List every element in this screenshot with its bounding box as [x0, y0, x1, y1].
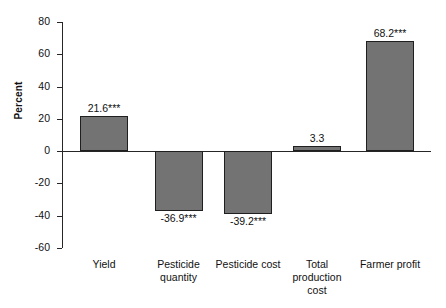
x-category-label: Farmer profit — [346, 258, 434, 271]
y-tick-label: -40 — [18, 210, 50, 221]
bar — [224, 151, 272, 214]
y-axis-title: Percent — [13, 56, 24, 146]
bar-chart: Percent 806040200-20-40-60 21.6***-36.9*… — [0, 0, 446, 308]
y-tick-label: -20 — [18, 177, 50, 188]
y-tick-mark — [57, 119, 62, 120]
y-axis-line — [62, 22, 63, 248]
bar-value-label: 3.3 — [272, 132, 362, 144]
y-tick-mark — [57, 248, 62, 249]
y-tick-label: 0 — [18, 145, 50, 156]
bar — [366, 41, 414, 151]
y-tick-mark — [57, 183, 62, 184]
bar — [80, 116, 128, 151]
bar — [155, 151, 203, 211]
bar — [293, 146, 341, 151]
y-tick-label: -60 — [18, 242, 50, 253]
y-tick-mark — [57, 151, 62, 152]
y-tick-label: 40 — [18, 81, 50, 92]
y-tick-mark — [57, 87, 62, 88]
bar-value-label: 21.6*** — [59, 102, 149, 114]
bar-value-label: 68.2*** — [345, 27, 435, 39]
y-tick-label: 60 — [18, 48, 50, 59]
bar-value-label: -39.2*** — [203, 215, 293, 227]
y-tick-label: 80 — [18, 16, 50, 27]
y-tick-mark — [57, 22, 62, 23]
y-tick-mark — [57, 54, 62, 55]
y-tick-label: 20 — [18, 113, 50, 124]
y-tick-mark — [57, 216, 62, 217]
